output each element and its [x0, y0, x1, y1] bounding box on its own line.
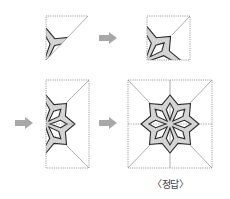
paper-folding-diagram [0, 0, 230, 199]
step2-square-panel [114, 16, 190, 93]
answer-caption: 〈정답〉 [150, 176, 190, 191]
arrow-2-icon [15, 117, 33, 129]
arrow-1-icon [99, 32, 117, 44]
arrow-3-icon [99, 117, 117, 129]
step1-triangle-panel [14, 16, 88, 92]
step4-full-panel [128, 80, 212, 168]
